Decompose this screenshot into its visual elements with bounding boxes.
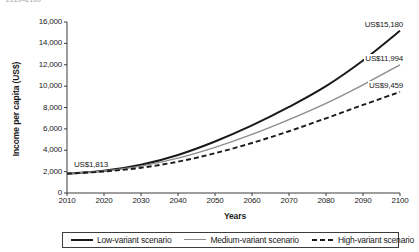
legend: Low-variant scenario Medium-variant scen… (62, 232, 399, 248)
value-annotation: US$1,813 (73, 160, 109, 169)
solid-thick-line-icon (71, 236, 93, 244)
value-annotation: US$11,994 (364, 54, 404, 63)
value-annotation: US$9,459 (368, 81, 404, 90)
dashed-line-icon (312, 236, 334, 244)
x-axis-title: Years (67, 211, 403, 221)
legend-item-label: Low-variant scenario (97, 235, 171, 245)
legend-item-high-variant: High-variant scenario (312, 235, 414, 245)
legend-item-label: Medium-variant scenario (210, 235, 298, 245)
legend-item-low-variant: Low-variant scenario (71, 235, 171, 245)
value-annotation: US$15,180 (364, 20, 404, 29)
legend-item-label: High-variant scenario (338, 235, 414, 245)
solid-thin-line-icon (184, 236, 206, 244)
legend-item-medium-variant: Medium-variant scenario (184, 235, 298, 245)
